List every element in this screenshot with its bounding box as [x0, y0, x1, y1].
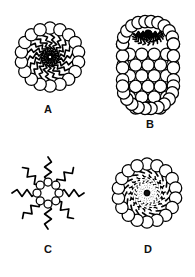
panel-label-d: D [138, 244, 158, 255]
surfactant-head [36, 181, 44, 189]
surfactant-head [167, 50, 179, 62]
surfactant-head [116, 80, 128, 92]
panel-label-a: A [38, 104, 58, 115]
surfactant-head [44, 200, 52, 208]
surfactant-head [33, 189, 41, 197]
panel-label-b: B [140, 119, 160, 130]
surfactant-head [55, 189, 63, 197]
tail-convergence-point [145, 30, 152, 37]
figure-root: A B C D [0, 0, 195, 277]
surfactant-head [52, 181, 60, 189]
surfactant-head [44, 178, 52, 186]
micelle-figure-svg [0, 0, 195, 277]
panel-b-cylindrical-rod-micelle [116, 15, 179, 114]
surfactant-head [167, 38, 179, 50]
panel-label-c: C [38, 244, 58, 255]
surfactant-head [167, 62, 179, 74]
surfactant-head [34, 24, 46, 36]
surfactant-head [36, 197, 44, 205]
surfactant-head [116, 50, 128, 62]
panel-d-micelle-with-solubilized-core [112, 158, 182, 228]
surfactant-head [52, 197, 60, 205]
surfactant-head [131, 160, 143, 172]
surfactant-head [116, 62, 128, 74]
